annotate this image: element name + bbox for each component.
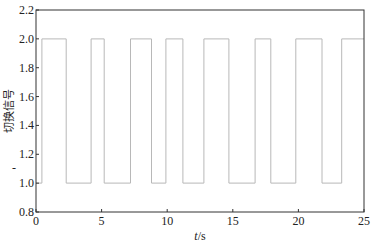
stray-mark: -: [12, 161, 16, 175]
axes-frame: [36, 10, 364, 212]
switching-signal-chart: 0.81.01.21.41.61.82.02.2 0510152025 切换信号…: [0, 0, 377, 248]
signal-line: [36, 39, 364, 183]
y-tick-label: 1.4: [19, 118, 34, 132]
x-axis-label-unit: /s: [198, 229, 206, 243]
y-tick-label: 1.0: [19, 176, 34, 190]
y-tick-label: 1.2: [19, 147, 34, 161]
y-tick-label: 1.8: [19, 61, 34, 75]
y-tick-label: 1.6: [19, 90, 34, 104]
x-tick-label: 10: [161, 214, 173, 228]
x-tick-label: 15: [227, 214, 239, 228]
x-tick-label: 20: [292, 214, 304, 228]
x-tick-label: 5: [99, 214, 105, 228]
y-tick-label: 2.0: [19, 32, 34, 46]
y-tick-label: 0.8: [19, 205, 34, 219]
x-tick-label: 0: [33, 214, 39, 228]
x-axis-label: t/s: [194, 229, 206, 243]
x-tick-label: 25: [358, 214, 370, 228]
y-axis-label: 切换信号: [2, 89, 16, 133]
y-tick-label: 2.2: [19, 3, 34, 17]
plot-area: [36, 10, 364, 212]
